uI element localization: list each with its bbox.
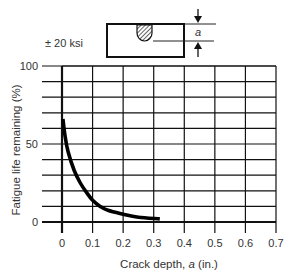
x-tick-label: 0.3 bbox=[146, 237, 161, 249]
x-tick-label: 0.2 bbox=[115, 237, 130, 249]
specimen-diagram: a ± 20 ksi bbox=[45, 9, 216, 57]
y-tick-label: 0 bbox=[32, 216, 38, 228]
x-axis-ticks: 00.10.20.30.40.50.60.7 bbox=[59, 237, 284, 249]
dimension-label: a bbox=[195, 26, 201, 38]
x-tick-label: 0.4 bbox=[177, 237, 192, 249]
y-axis-ticks: 050100 bbox=[20, 60, 38, 228]
arrow-up-icon bbox=[194, 42, 202, 49]
x-tick-label: 0.6 bbox=[238, 237, 253, 249]
data-curve bbox=[63, 119, 160, 219]
fatigue-chart: a ± 20 ksi 050100 00.10.20.30.40.50.60.7… bbox=[0, 0, 290, 276]
y-axis-title: Fatigue life remaining (%) bbox=[10, 84, 22, 215]
x-tick-label: 0 bbox=[59, 237, 65, 249]
y-tick-label: 50 bbox=[26, 138, 38, 150]
arrow-down-icon bbox=[194, 16, 202, 23]
crack-hatched-icon bbox=[137, 25, 152, 41]
x-tick-label: 0.1 bbox=[85, 237, 100, 249]
x-tick-label: 0.5 bbox=[207, 237, 222, 249]
y-tick-label: 100 bbox=[20, 60, 38, 72]
x-tick-label: 0.7 bbox=[268, 237, 283, 249]
x-axis-title: Crack depth, a (in.) bbox=[120, 258, 218, 270]
plot-grid bbox=[42, 66, 276, 233]
stress-label: ± 20 ksi bbox=[45, 37, 83, 49]
fatigue-curve bbox=[63, 119, 160, 219]
